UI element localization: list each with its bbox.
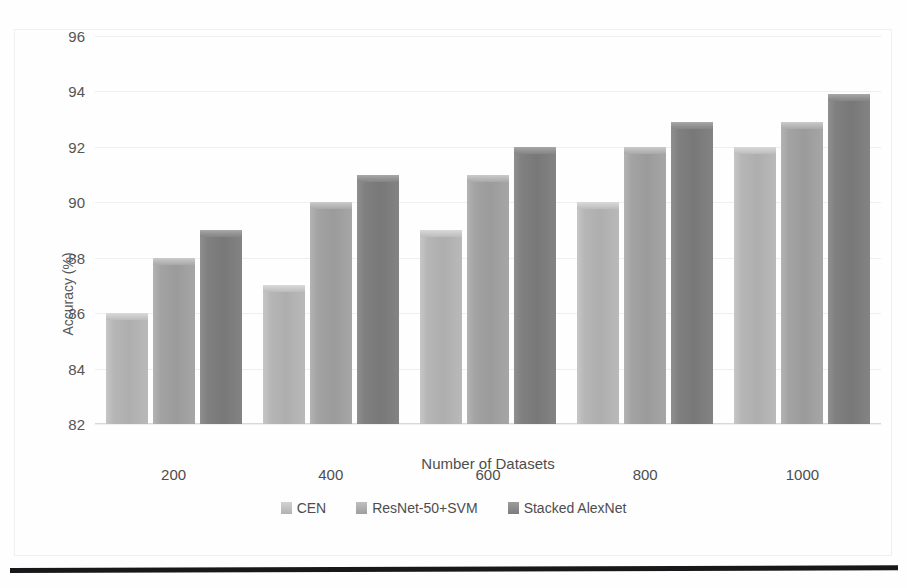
bar-group — [577, 36, 713, 424]
bar-cap — [310, 202, 352, 209]
legend-label: Stacked AlexNet — [524, 500, 627, 516]
figure: Accuracy (%) 8284868890929496 2004006008… — [0, 0, 907, 588]
bar-body — [420, 235, 462, 424]
y-tick-label: 94 — [68, 83, 85, 100]
bar-stacked-alexnet-600 — [514, 147, 556, 424]
bar-body — [153, 263, 195, 424]
bar-group — [420, 36, 556, 424]
bar-cap — [781, 122, 823, 129]
y-tick-label: 96 — [68, 28, 85, 45]
bar-cap — [420, 230, 462, 237]
bar-cen-600 — [420, 230, 462, 424]
bar-body — [514, 152, 556, 424]
legend-swatch-icon — [356, 502, 367, 514]
bar-body — [624, 152, 666, 424]
legend-label: CEN — [297, 500, 327, 516]
bar-cap — [577, 202, 619, 209]
bar-cap — [153, 258, 195, 265]
bar-stacked-alexnet-200 — [200, 230, 242, 424]
bar-resnet-50-svm-400 — [310, 202, 352, 424]
bar-group — [106, 36, 242, 424]
bar-body — [734, 152, 776, 424]
y-tick-label: 92 — [68, 138, 85, 155]
bar-resnet-50-svm-800 — [624, 147, 666, 424]
bar-body — [357, 180, 399, 424]
bar-body — [577, 207, 619, 424]
bar-groups — [95, 36, 881, 424]
bar-group — [263, 36, 399, 424]
bar-cen-800 — [577, 202, 619, 424]
bar-body — [467, 180, 509, 424]
bar-body — [671, 127, 713, 424]
bar-cap — [828, 94, 870, 101]
bar-group — [734, 36, 870, 424]
bar-body — [263, 290, 305, 424]
bar-cap — [200, 230, 242, 237]
legend-swatch-icon — [508, 502, 519, 514]
bar-body — [106, 318, 148, 424]
y-tick-label: 88 — [68, 249, 85, 266]
x-axis-label: Number of Datasets — [95, 455, 881, 472]
bar-resnet-50-svm-1000 — [781, 122, 823, 424]
bar-body — [828, 99, 870, 424]
bar-body — [781, 127, 823, 424]
bar-resnet-50-svm-600 — [467, 175, 509, 424]
bar-cen-1000 — [734, 147, 776, 424]
legend-item-resnet-50-svm[interactable]: ResNet-50+SVM — [356, 500, 477, 516]
y-tick-label: 82 — [68, 416, 85, 433]
bar-stacked-alexnet-400 — [357, 175, 399, 424]
legend-item-stacked-alexnet[interactable]: Stacked AlexNet — [508, 500, 627, 516]
bar-body — [310, 207, 352, 424]
bar-cap — [263, 285, 305, 292]
y-tick-label: 90 — [68, 194, 85, 211]
legend-label: ResNet-50+SVM — [372, 500, 477, 516]
bar-cap — [734, 147, 776, 154]
bar-stacked-alexnet-800 — [671, 122, 713, 424]
bar-cap — [106, 313, 148, 320]
plot-area: 8284868890929496 2004006008001000 — [95, 36, 881, 424]
legend-item-cen[interactable]: CEN — [281, 500, 327, 516]
bar-body — [200, 235, 242, 424]
legend-swatch-icon — [281, 502, 292, 514]
bar-resnet-50-svm-200 — [153, 258, 195, 424]
legend: CENResNet-50+SVMStacked AlexNet — [0, 500, 907, 516]
y-tick-label: 84 — [68, 360, 85, 377]
bar-cap — [624, 147, 666, 154]
footer-rule — [10, 565, 898, 573]
bar-cap — [514, 147, 556, 154]
bar-stacked-alexnet-1000 — [828, 94, 870, 424]
bar-cen-200 — [106, 313, 148, 424]
bar-cap — [467, 175, 509, 182]
y-tick-label: 86 — [68, 305, 85, 322]
gridline — [95, 424, 881, 425]
bar-cap — [357, 175, 399, 182]
bar-cap — [671, 122, 713, 129]
bar-cen-400 — [263, 285, 305, 424]
